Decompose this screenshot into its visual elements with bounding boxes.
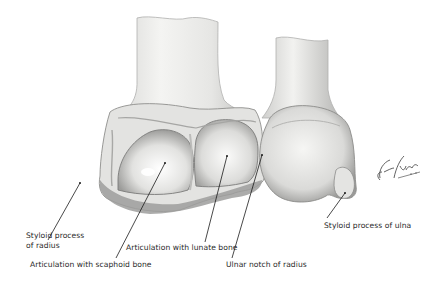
- label-ulnar-notch: Ulnar notch of radius: [226, 260, 307, 270]
- ulna: [260, 37, 357, 202]
- label-line: of radius: [26, 241, 84, 251]
- label-styloid-process-radius: Styloid process of radius: [26, 231, 84, 251]
- artist-signature: [378, 156, 420, 180]
- label-articulation-lunate: Articulation with lunate bone: [126, 243, 238, 253]
- label-styloid-process-ulna: Styloid process of ulna: [324, 221, 411, 231]
- label-line: Styloid process: [26, 231, 84, 241]
- radius: [99, 17, 264, 214]
- anatomy-illustration: Styloid process of radius Articulation w…: [0, 0, 442, 285]
- label-articulation-scaphoid: Articulation with scaphoid bone: [30, 260, 152, 270]
